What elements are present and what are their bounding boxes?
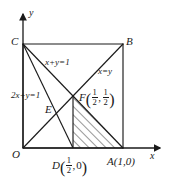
paren-close: ) <box>82 159 87 176</box>
equation-label-2x-plus-y: 2x+y=1 <box>11 91 40 100</box>
point-label-D-prefix: D <box>52 159 60 171</box>
point-label-C: C <box>11 36 18 47</box>
x-axis-label: x <box>150 151 154 161</box>
y-axis-label: y <box>29 8 33 18</box>
geometry-figure: y x C B O A(1,0) E D(12, 0) F(12, 12) x+… <box>0 0 173 184</box>
fraction-one-half-y: 12 <box>103 88 109 107</box>
point-label-O: O <box>12 149 20 160</box>
fraction-one-half-x: 12 <box>92 88 98 107</box>
comma: , <box>98 91 102 103</box>
paren-close: ) <box>109 91 114 108</box>
point-label-F: F(12, 12) <box>79 88 115 107</box>
equation-label-x-equals-y: x=y <box>98 67 112 76</box>
point-label-B: B <box>126 36 133 47</box>
point-label-F-prefix: F <box>79 91 86 103</box>
point-label-E: E <box>45 104 52 115</box>
paren-open: ( <box>60 159 65 176</box>
fraction-one-half: 12 <box>66 156 72 175</box>
equation-label-x-plus-y: x+y=1 <box>45 58 70 67</box>
point-label-D: D(12, 0) <box>52 156 87 175</box>
point-label-A: A(1,0) <box>107 156 135 167</box>
paren-open: ( <box>86 91 91 108</box>
